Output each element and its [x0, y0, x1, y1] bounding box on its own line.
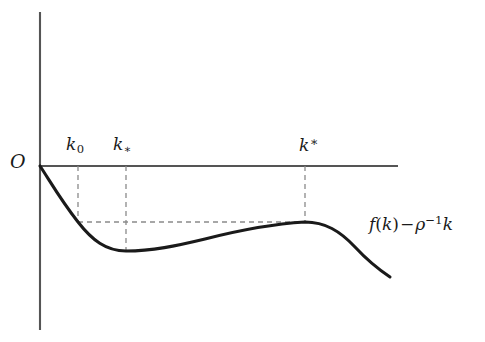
curve-minus-sign: − [400, 214, 414, 234]
axis-label-k-sub-star: k∗ [113, 136, 132, 156]
k-sub-star-subscript: ∗ [124, 142, 132, 156]
origin-label: O [10, 152, 26, 171]
k-sup-star-superscript: ∗ [310, 134, 319, 149]
curve-k-inner: k [382, 214, 392, 234]
axis-label-k-sup-star: k∗ [299, 136, 318, 154]
plot-svg [0, 0, 485, 342]
figure-container: O k0 k∗ k∗ f(k)−ρ−1k [0, 0, 485, 342]
curve-open-paren: ( [375, 214, 382, 234]
curve-rho-exponent: −1 [425, 213, 443, 227]
k0-subscript: 0 [77, 142, 84, 156]
axis-label-k0: k0 [66, 136, 84, 156]
curve-expression-label: f(k)−ρ−1k [369, 215, 453, 233]
curve-close-paren: ) [392, 214, 399, 234]
curve-k-outer: k [443, 214, 453, 234]
curve-rho: ρ [415, 214, 425, 234]
